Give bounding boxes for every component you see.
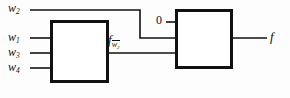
constant-label-zero: 0 [156, 14, 162, 26]
right-block[interactable] [177, 11, 232, 68]
input-label-w2-subscript: 2 [16, 7, 20, 16]
output-label-f: f [270, 30, 274, 43]
input-label-w3-subscript: 3 [16, 51, 20, 60]
input-label-w4: w4 [8, 61, 20, 75]
left-block[interactable] [52, 22, 108, 82]
intermediate-label-f-cofactor: fw2 [108, 33, 120, 49]
intermediate-label-subscript: w2 [112, 40, 120, 49]
input-label-w4-base: w [8, 60, 16, 74]
input-label-w3: w3 [8, 46, 20, 60]
input-label-w2-base: w [8, 1, 16, 15]
intermediate-label-subscript-index: 2 [117, 44, 120, 49]
input-label-w1-subscript: 1 [16, 36, 20, 45]
input-label-w1: w1 [8, 31, 20, 45]
diagram-canvas: w2 w1 w3 w4 fw2 0 f [0, 0, 290, 98]
overline-group: w2 [112, 40, 120, 50]
wire-layer [0, 0, 290, 98]
input-label-w2: w2 [8, 2, 20, 16]
input-label-w3-base: w [8, 45, 16, 59]
input-label-w4-subscript: 4 [16, 66, 20, 75]
input-label-w1-base: w [8, 30, 16, 44]
